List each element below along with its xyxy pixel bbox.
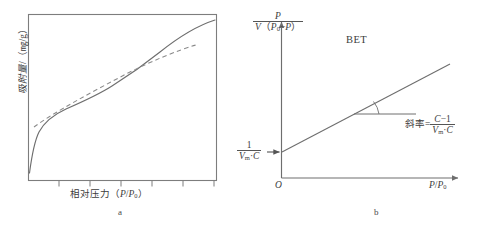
tangent-dashed-line (34, 45, 196, 127)
slope-numerator: C−1 (430, 114, 454, 124)
panel-a: 吸附量/（㎎/g） 相对压力（P/P0） a (0, 0, 236, 226)
intercept-annotation: 1 Vm·C (237, 140, 261, 162)
y-axis-unit-open: /（ (18, 51, 28, 64)
slope-num-one: 1 (446, 114, 451, 124)
slope-annotation: 斜率= C−1 Vm·C (405, 114, 455, 136)
x-axis-paren-close: ） (138, 189, 148, 199)
x-axis-paren-open: （ (110, 189, 120, 199)
isotherm-curve (30, 20, 216, 173)
panel-b-y-axis-label: P V（P0−P） (253, 11, 303, 33)
origin-label: O (275, 181, 282, 191)
x-axis-p0-subscript: 0 (443, 183, 446, 190)
bet-line (282, 64, 450, 152)
slope-word: 斜率 (405, 119, 425, 129)
y-axis-fraction: P V（P0−P） (253, 11, 303, 33)
intercept-numerator: 1 (237, 140, 261, 150)
figure-container: 吸附量/（㎎/g） 相对压力（P/P0） a (0, 0, 479, 226)
y-axis-den-close: ） (291, 22, 301, 32)
y-axis-den-open: （ (261, 22, 271, 32)
panel-a-plot (0, 0, 236, 200)
y-axis-numerator: P (253, 11, 303, 21)
panel-a-y-axis-label: 吸附量/（㎎/g） (15, 13, 29, 105)
intercept-fraction: 1 Vm·C (237, 140, 261, 162)
slope-denominator: Vm·C (430, 124, 454, 135)
y-axis-label-main: 吸附量 (18, 64, 28, 94)
panel-b-caption: b (374, 207, 379, 217)
intercept-den-c: C (253, 151, 259, 161)
panel-b: P V（P0−P） BET 斜率= C−1 Vm·C 1 Vm·C O P/P0 (236, 0, 479, 226)
slope-den-c: C (446, 125, 452, 135)
panel-a-caption: a (118, 207, 122, 217)
y-axis-denominator: V（P0−P） (253, 21, 303, 32)
x-axis-ticks (59, 181, 214, 187)
bet-annotation-label: BET (346, 34, 367, 45)
x-axis-label-main: 相对压力 (70, 189, 110, 199)
y-axis-unit-mg: ㎎ (18, 41, 28, 51)
y-axis-unit-close: ） (18, 24, 28, 34)
slope-fraction: C−1 Vm·C (430, 114, 454, 136)
panel-b-x-axis-label: P/P0 (429, 181, 447, 191)
panel-a-x-axis-label: 相对压力（P/P0） (70, 190, 148, 200)
y-axis-unit-slash: /g (18, 34, 28, 41)
intercept-denominator: Vm·C (237, 150, 261, 161)
plot-frame (29, 15, 217, 181)
